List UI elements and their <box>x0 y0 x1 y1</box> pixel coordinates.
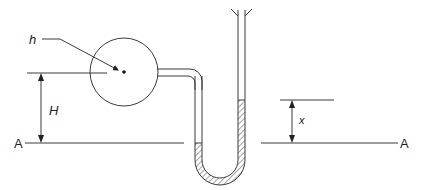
funnel-top <box>231 9 252 16</box>
label-A-left: A <box>14 136 23 151</box>
manometer-diagram: h H A A x <box>0 0 424 190</box>
label-A-right: A <box>400 136 409 151</box>
u-tube <box>195 10 245 185</box>
vessel-center-point <box>122 70 126 74</box>
label-x: x <box>298 114 305 126</box>
label-H: H <box>49 103 59 118</box>
dimension-H <box>27 73 107 143</box>
h-leader <box>42 39 118 70</box>
dimension-x <box>280 100 334 143</box>
label-h: h <box>29 32 36 47</box>
